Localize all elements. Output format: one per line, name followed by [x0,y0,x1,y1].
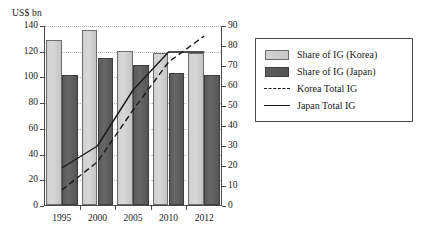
y-axis-left-tick-label: 40 [29,150,39,160]
x-axis-tick-label: 2012 [195,214,214,224]
x-axis-tick-label: 1995 [52,214,71,224]
y-axis-right-tick [222,106,226,107]
y-axis-right-tick [222,166,226,167]
y-axis-right-tick-label: 90 [228,21,238,31]
x-axis-tick-label: 2010 [159,214,178,224]
y-axis-right-tick [222,146,226,147]
legend-key-japan-bar [264,66,290,77]
y-axis-left-tick-label: 140 [24,21,38,31]
x-axis-tick [186,206,187,210]
y-axis-right-tick-label: 50 [228,101,238,111]
legend-item[interactable]: Share of IG (Korea) [264,46,404,63]
y-axis-left-tick-label: 60 [29,124,39,134]
y-axis-left-tick-label: 80 [29,98,39,108]
legend-item[interactable]: Korea Total IG [264,80,404,97]
y-axis-right-tick [222,186,226,187]
line-series-layer [44,26,222,206]
line-series [62,36,204,190]
y-axis-right-tick-label: 60 [228,81,238,91]
y-axis-right-tick [222,126,226,127]
legend-key-line [264,100,290,111]
legend-key-line [264,83,290,94]
x-axis-tick [115,206,116,210]
y-axis-right-tick [222,86,226,87]
y-axis-left-tick [40,206,44,207]
x-axis-tick-label: 2000 [88,214,107,224]
legend-swatch-japan-icon [265,67,289,77]
y-axis-right-tick [222,66,226,67]
y-axis-right-tick-label: 30 [228,141,238,151]
y-axis-right-tick [222,206,226,207]
legend-solid-line-icon [264,105,290,106]
y-axis-right-tick-label: 80 [228,41,238,51]
y-axis-right-tick [222,46,226,47]
x-axis-tick-label: 2005 [124,214,143,224]
legend-item-label: Korea Total IG [297,84,357,94]
legend-key-korea-bar [264,49,290,60]
y-axis-left-tick-label: 20 [29,176,39,186]
y-axis-right-tick-label: 0 [228,201,233,211]
y-axis-right-tick-label: 70 [228,61,238,71]
y-axis-right-tick-label: 10 [228,181,238,191]
y-axis-right-tick-label: 40 [228,121,238,131]
y-axis-left-tick-label: 120 [24,47,38,57]
y-axis-title: US$ bn [12,8,42,18]
legend-item-label: Share of IG (Korea) [297,50,377,60]
x-axis-tick [151,206,152,210]
y-axis-right-tick-label: 20 [228,161,238,171]
legend-item[interactable]: Japan Total IG [264,97,404,114]
legend-item-label: Japan Total IG [297,101,356,111]
plot-area: 020406080100120140 0102030405060708090 1… [44,26,222,206]
legend-swatch-korea-icon [265,50,289,60]
y-axis-left-tick-label: 0 [33,201,38,211]
legend-item-label: Share of IG (Japan) [297,67,376,77]
legend-dashed-line-icon [264,88,290,89]
chart-legend: Share of IG (Korea)Share of IG (Japan)Ko… [255,38,413,122]
chart-container: US$ bn 020406080100120140 01020304050607… [0,0,428,251]
y-axis-left-tick-label: 100 [24,73,38,83]
x-axis-tick [80,206,81,210]
legend-item[interactable]: Share of IG (Japan) [264,63,404,80]
y-axis-right-tick [222,26,226,27]
